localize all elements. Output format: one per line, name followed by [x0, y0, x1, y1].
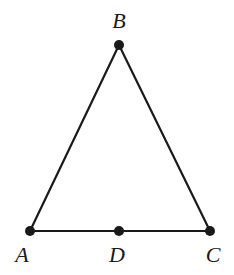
point-a [25, 226, 35, 236]
label-b: B [112, 8, 125, 33]
triangle-diagram: B A D C [0, 0, 234, 275]
point-d [114, 226, 124, 236]
label-c: C [206, 242, 221, 267]
label-a: A [13, 242, 29, 267]
points [25, 40, 215, 236]
segment-ab [30, 45, 119, 231]
point-c [205, 226, 215, 236]
point-b [114, 40, 124, 50]
segment-bc [119, 45, 210, 231]
segments [30, 45, 210, 231]
label-d: D [108, 242, 125, 267]
